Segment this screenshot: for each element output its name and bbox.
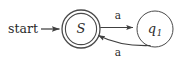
automaton-canvas: start S q 1 a a: [0, 0, 186, 59]
state-S-label: S: [77, 21, 86, 36]
transition-q1-to-S-label: a: [115, 46, 121, 58]
automaton-diagram: start S q 1 a a: [0, 0, 186, 59]
state-S[interactable]: S: [62, 10, 100, 48]
transition-S-to-q1[interactable]: a: [100, 9, 133, 28]
state-q1-label: q: [148, 21, 156, 36]
start-label: start: [8, 21, 38, 36]
state-q1-subscript: 1: [157, 28, 162, 38]
state-q1[interactable]: q 1: [137, 11, 173, 47]
transition-S-to-q1-label: a: [115, 9, 121, 21]
